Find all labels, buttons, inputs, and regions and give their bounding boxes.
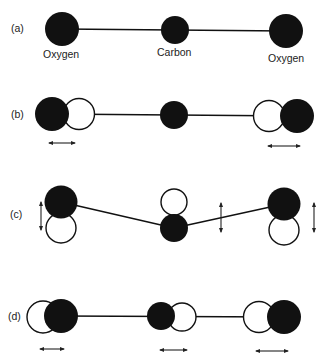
bond-line [61, 202, 174, 228]
oxygen-atom-left [44, 299, 78, 333]
oxygen-atom-right [268, 188, 301, 221]
panel-label-a: (a) [11, 22, 24, 34]
oxygen-atom-left [45, 12, 79, 46]
carbon-atom [160, 101, 188, 129]
panel-label-d: (d) [8, 310, 21, 322]
carbon-label: Carbon [157, 46, 192, 58]
oxygen-atom-right [267, 300, 301, 334]
panel-a: (a) Oxygen Carbon Oxygen [11, 12, 304, 64]
co2-vibration-diagram: (a) Oxygen Carbon Oxygen (b) (c) [0, 0, 329, 361]
oxygen-atom-right [269, 14, 303, 48]
oxygen-label-right: Oxygen [268, 52, 304, 64]
panel-d: (d) [8, 299, 301, 351]
oxygen-displaced-right [254, 101, 285, 132]
oxygen-atom-left [45, 186, 78, 219]
panel-label-c: (c) [10, 208, 22, 220]
carbon-atom [147, 302, 175, 330]
bond-line [174, 204, 284, 228]
oxygen-label-left: Oxygen [43, 48, 79, 60]
oxygen-atom-right [280, 99, 314, 133]
carbon-atom [161, 16, 189, 44]
panel-label-b: (b) [11, 108, 24, 120]
carbon-atom [160, 214, 188, 242]
oxygen-atom-left [35, 97, 69, 131]
panel-b: (b) [11, 97, 314, 146]
panel-c: (c) [10, 186, 314, 246]
carbon-displaced [161, 189, 187, 215]
